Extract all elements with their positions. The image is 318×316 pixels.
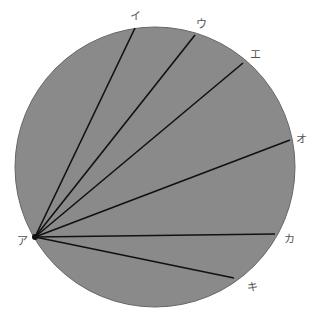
circle — [15, 27, 295, 307]
point-label: キ — [247, 281, 258, 294]
origin-label: ア — [17, 235, 28, 248]
origin-point — [32, 234, 38, 240]
point-label: イ — [130, 10, 141, 23]
point-label: オ — [296, 133, 307, 146]
point-label: カ — [284, 233, 295, 246]
point-label: ウ — [196, 18, 207, 31]
point-label: エ — [250, 48, 261, 61]
circle-diagram: ア イウエオカキ — [0, 0, 318, 316]
